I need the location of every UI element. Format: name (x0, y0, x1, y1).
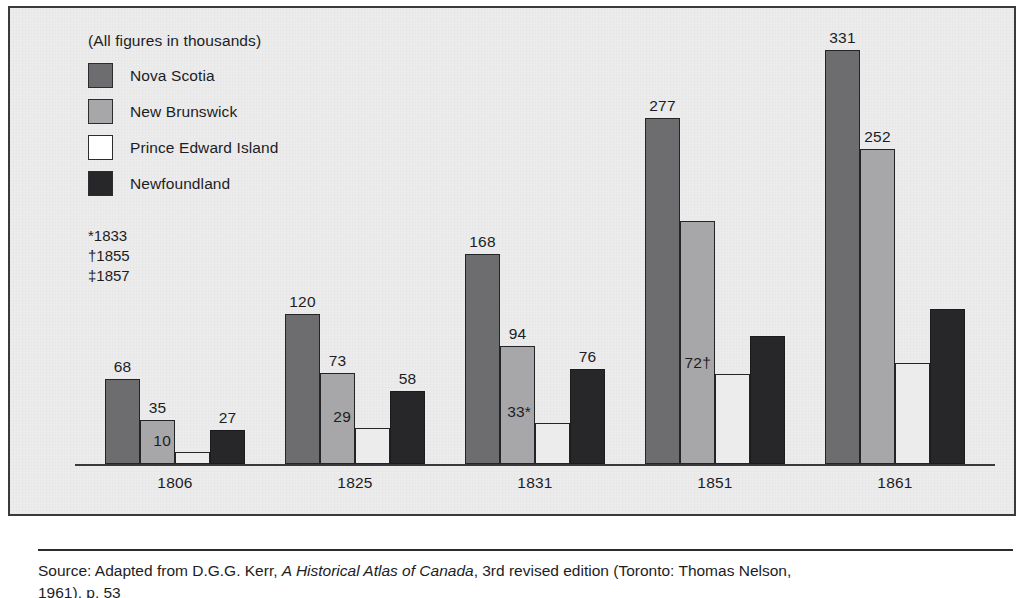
footnote-3: ‡1857 (88, 266, 130, 286)
bar-value-ns-1831: 168 (465, 233, 500, 251)
bar-nb-1861 (860, 149, 895, 464)
bar-ns-1861 (825, 50, 860, 464)
source-note: Source: Adapted from D.G.G. Kerr, A Hist… (38, 560, 1013, 598)
bar-value-pei-1825: 29 (311, 408, 351, 426)
legend-swatch-prince-edward-island (88, 135, 113, 160)
source-suffix: , 3rd revised edition (Toronto: Thomas N… (474, 562, 792, 579)
bar-nfl-1831 (570, 369, 605, 464)
bar-group-1861: 3312521861 (825, 22, 965, 464)
bar-value-nfl-1831: 76 (570, 348, 605, 366)
chart-legend: (All figures in thousands) Nova Scotia N… (88, 32, 278, 207)
footnote-2: †1855 (88, 246, 130, 266)
bar-group-1825: 1207329581825 (285, 22, 425, 464)
bar-nfl-1825 (390, 391, 425, 464)
bar-value-nb-1806: 35 (140, 399, 175, 417)
bar-value-ns-1861: 331 (825, 29, 860, 47)
x-tick-label-1806: 1806 (105, 474, 245, 492)
bar-value-ns-1825: 120 (285, 293, 320, 311)
legend-swatch-nova-scotia (88, 63, 113, 88)
bar-value-nfl-1825: 58 (390, 370, 425, 388)
bar-value-nb-1825: 73 (320, 352, 355, 370)
legend-item-newfoundland: Newfoundland (88, 171, 278, 196)
source-divider (38, 549, 1013, 551)
legend-label-nova-scotia: Nova Scotia (130, 67, 215, 85)
bar-pei-1825 (355, 428, 390, 464)
bar-value-pei-1851: 72† (671, 354, 711, 372)
chart-footnotes: *1833 †1855 ‡1857 (88, 226, 130, 285)
bar-ns-1806 (105, 379, 140, 464)
legend-item-nova-scotia: Nova Scotia (88, 63, 278, 88)
bar-nb-1851 (680, 221, 715, 464)
legend-label-prince-edward-island: Prince Edward Island (130, 139, 278, 157)
bar-value-nfl-1806: 27 (210, 409, 245, 427)
x-tick-label-1851: 1851 (645, 474, 785, 492)
legend-label-new-brunswick: New Brunswick (130, 103, 237, 121)
x-tick-label-1831: 1831 (465, 474, 605, 492)
bar-group-1851: 27772†1851 (645, 22, 785, 464)
bar-nfl-1861 (930, 309, 965, 464)
legend-caption: (All figures in thousands) (88, 32, 278, 50)
bar-value-pei-1831: 33* (491, 403, 531, 421)
bar-nfl-1851 (750, 336, 785, 464)
source-prefix: Source: Adapted from D.G.G. Kerr, (38, 562, 282, 579)
source-title: A Historical Atlas of Canada (282, 562, 474, 579)
legend-swatch-newfoundland (88, 171, 113, 196)
legend-label-newfoundland: Newfoundland (130, 175, 230, 193)
bar-group-1831: 1689433*761831 (465, 22, 605, 464)
bar-value-pei-1806: 10 (131, 432, 171, 450)
x-axis-line (75, 464, 995, 466)
footnote-1: *1833 (88, 226, 130, 246)
bar-value-ns-1806: 68 (105, 358, 140, 376)
bar-pei-1861 (895, 363, 930, 464)
legend-item-new-brunswick: New Brunswick (88, 99, 278, 124)
bar-nfl-1806 (210, 430, 245, 464)
bar-value-ns-1851: 277 (645, 97, 680, 115)
bar-value-nb-1861: 252 (860, 128, 895, 146)
legend-item-prince-edward-island: Prince Edward Island (88, 135, 278, 160)
bar-value-nb-1831: 94 (500, 325, 535, 343)
legend-swatch-new-brunswick (88, 99, 113, 124)
bar-ns-1825 (285, 314, 320, 464)
chart-page: (All figures in thousands) Nova Scotia N… (0, 0, 1028, 598)
x-tick-label-1825: 1825 (285, 474, 425, 492)
bar-pei-1831 (535, 423, 570, 464)
x-tick-label-1861: 1861 (825, 474, 965, 492)
chart-panel: (All figures in thousands) Nova Scotia N… (8, 6, 1016, 516)
bar-pei-1851 (715, 374, 750, 464)
bar-pei-1806 (175, 452, 210, 465)
bar-ns-1831 (465, 254, 500, 464)
source-line2: 1961), p. 53 (38, 584, 121, 598)
bar-ns-1851 (645, 118, 680, 464)
